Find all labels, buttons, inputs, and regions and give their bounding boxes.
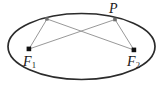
point-p-marker xyxy=(113,18,117,22)
ellipse-figure: P F1 F2 xyxy=(0,0,163,93)
segment-p-to-f2 xyxy=(115,20,134,51)
focus-1-label: F1 xyxy=(23,55,36,70)
focus-2-dot xyxy=(132,48,137,53)
segment-q-to-f1 xyxy=(29,19,47,49)
figure-canvas xyxy=(0,0,163,93)
point-p-label: P xyxy=(109,2,118,16)
segment-q-to-f2 xyxy=(47,19,134,50)
point-q-marker xyxy=(45,17,48,20)
segment-p-to-f1 xyxy=(29,20,115,50)
focus-2-label: F2 xyxy=(127,55,140,70)
focal-radius-group xyxy=(29,19,134,50)
focus-1-dot xyxy=(27,47,32,52)
focus-2-subscript: 2 xyxy=(136,60,141,70)
focus-1-subscript: 1 xyxy=(32,60,37,70)
